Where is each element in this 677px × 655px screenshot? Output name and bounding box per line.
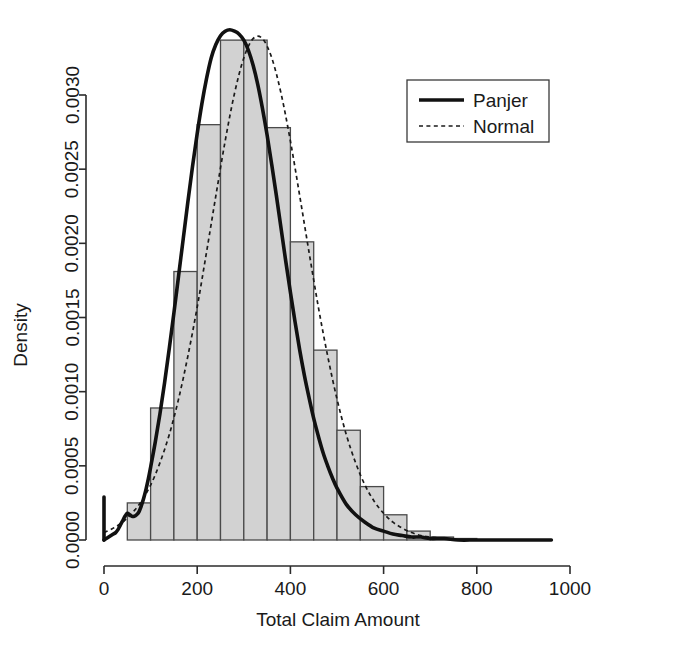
y-tick-label: 0.0010 [62, 363, 83, 421]
x-tick-label: 600 [368, 578, 400, 599]
x-tick-label: 800 [461, 578, 493, 599]
histogram-bar [337, 430, 360, 540]
y-tick-label: 0.0015 [62, 288, 83, 346]
x-axis-title: Total Claim Amount [256, 609, 420, 630]
legend-label-panjer: Panjer [473, 90, 529, 111]
histogram-bar [267, 128, 290, 540]
histogram-bar [290, 242, 313, 540]
x-tick-label: 0 [99, 578, 110, 599]
y-axis-title: Density [10, 303, 31, 367]
histogram-density-chart: 0.00000.00050.00100.00150.00200.00250.00… [0, 0, 677, 655]
x-tick-label: 200 [181, 578, 213, 599]
histogram-bar [360, 487, 383, 540]
legend-label-normal: Normal [473, 116, 534, 137]
y-tick-label: 0.0000 [62, 511, 83, 569]
histogram-bar [197, 125, 220, 540]
y-tick-label: 0.0030 [62, 66, 83, 124]
density-plot-figure: 0.00000.00050.00100.00150.00200.00250.00… [0, 0, 677, 655]
histogram-bar [221, 40, 244, 540]
x-tick-label: 400 [275, 578, 307, 599]
y-tick-label: 0.0020 [62, 214, 83, 272]
y-axis: 0.00000.00050.00100.00150.00200.00250.00… [62, 66, 87, 569]
histogram-bar [174, 272, 197, 540]
x-tick-label: 1000 [549, 578, 591, 599]
chart-legend: Panjer Normal [407, 80, 549, 142]
y-tick-label: 0.0005 [62, 437, 83, 495]
chart-background [0, 0, 677, 655]
histogram-bar [314, 350, 337, 540]
y-tick-label: 0.0025 [62, 140, 83, 198]
